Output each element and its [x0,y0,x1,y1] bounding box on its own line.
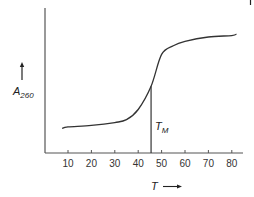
x-tick-label: 60 [179,158,191,169]
x-tick-label: 70 [203,158,215,169]
y-axis-title: A260 [12,85,34,100]
x-tick-label: 80 [226,158,238,169]
x-axis-title: T [151,180,159,192]
melting-curve [62,34,236,128]
x-tick-label: 50 [156,158,168,169]
x-axis-arrow-icon [163,185,182,189]
y-axis-arrow-icon [20,62,24,80]
x-tick-label: 20 [86,158,98,169]
x-tick-label: 30 [109,158,121,169]
tm-label: TM [155,120,169,135]
x-tick-label: 10 [62,158,74,169]
melting-curve-chart: 1020304050607080 TM A260 T [0,0,254,197]
x-tick-label: 40 [133,158,145,169]
